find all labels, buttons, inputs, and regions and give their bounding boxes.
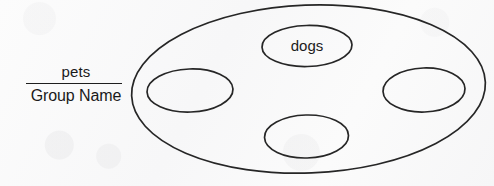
top-member-label: dogs <box>291 37 324 54</box>
worksheet-page: pets Group Name dogs <box>0 0 494 186</box>
bottom-member-ellipse <box>264 114 349 159</box>
group-diagram: dogs <box>0 0 494 186</box>
outer-group-ellipse <box>128 0 488 180</box>
left-member-ellipse <box>146 68 233 114</box>
right-member-ellipse <box>382 67 465 114</box>
